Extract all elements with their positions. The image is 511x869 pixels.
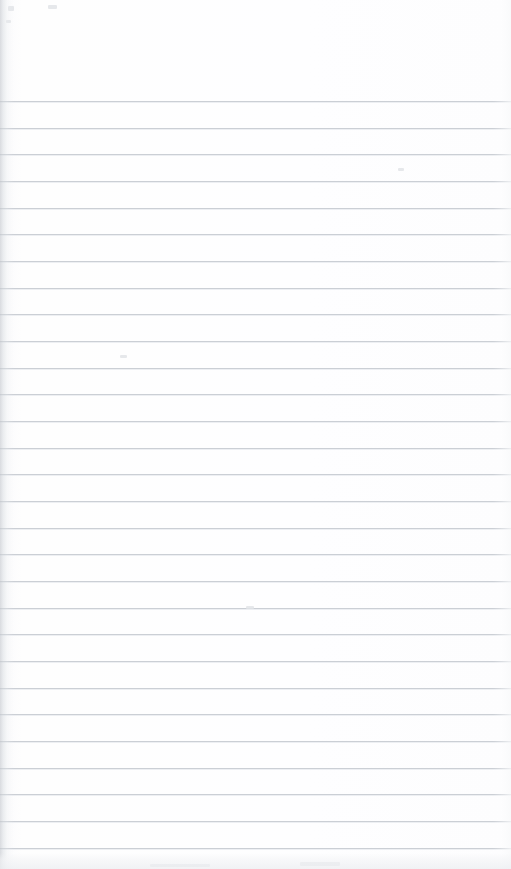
scanned-notebook-page: [0, 0, 511, 869]
page-body-text[interactable]: [0, 100, 511, 853]
